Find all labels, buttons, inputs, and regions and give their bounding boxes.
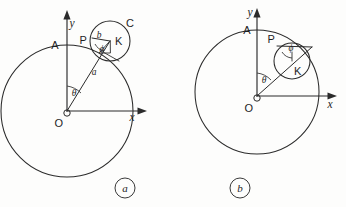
panel-b-label-theta: θ bbox=[262, 75, 267, 85]
panel-b-x-axis-label: x bbox=[326, 98, 333, 110]
panel-b-y-axis-label: y bbox=[246, 6, 253, 19]
geometry-figure-canvas: y x O A P K C b a θ ϕ a bbox=[0, 0, 346, 207]
panel-a-rolling-circle-label-C: C bbox=[126, 17, 134, 29]
panel-b-caption-label: b bbox=[237, 182, 243, 194]
panel-a-label-a: a bbox=[92, 67, 97, 77]
panel-a: y x O A P K C b a θ ϕ a bbox=[1, 10, 147, 198]
panel-a-x-axis-arrowhead bbox=[138, 108, 148, 115]
panel-a-caption-label: a bbox=[122, 182, 128, 194]
panel-b-apex-label-A: A bbox=[243, 24, 251, 36]
panel-a-label-phi: ϕ bbox=[100, 44, 105, 54]
panel-a-y-axis-label: y bbox=[68, 17, 75, 30]
panel-b-label-phi: ϕ bbox=[289, 43, 294, 53]
panel-b-y-axis-arrowhead bbox=[253, 8, 260, 18]
panel-a-label-theta: θ bbox=[72, 88, 77, 98]
panel-a-label-b: b bbox=[97, 30, 102, 40]
panel-a-point-label-P: P bbox=[79, 34, 87, 46]
panel-b-origin-label: O bbox=[245, 102, 254, 114]
panel-b: y x O A P K θ ϕ b bbox=[195, 6, 337, 198]
panel-a-x-axis-label: x bbox=[128, 111, 135, 123]
panel-b-radius-line bbox=[257, 47, 312, 96]
panel-b-center-label-K: K bbox=[294, 65, 302, 77]
panel-a-origin-label: O bbox=[55, 117, 64, 129]
panel-a-apex-label-A: A bbox=[51, 39, 59, 51]
figure-root: y x O A P K C b a θ ϕ a bbox=[0, 0, 346, 207]
panel-a-center-label-K: K bbox=[115, 35, 123, 47]
panel-b-point-label-P: P bbox=[267, 33, 275, 45]
